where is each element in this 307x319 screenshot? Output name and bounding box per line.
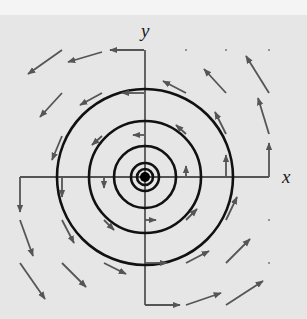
vector-arrow	[226, 281, 263, 305]
y-axis-label: y	[139, 20, 150, 41]
vector-arrow	[68, 52, 102, 62]
vector-arrow	[104, 263, 126, 274]
grid-dot	[268, 49, 270, 51]
vector-arrow	[40, 93, 62, 117]
grid-dot	[185, 49, 187, 51]
vector-arrow	[20, 263, 45, 299]
grid-dot	[268, 262, 270, 264]
vector-field-plot: y x	[0, 0, 307, 319]
vector-arrow	[258, 98, 269, 134]
vector-arrow	[186, 293, 221, 305]
grid-dot	[225, 49, 227, 51]
grid-dot	[268, 219, 270, 221]
vector-arrow	[62, 263, 86, 287]
origin-dot	[140, 172, 150, 182]
vector-arrow	[226, 239, 250, 263]
vector-arrow	[20, 220, 33, 256]
vector-arrow	[62, 220, 74, 243]
x-axis-label: x	[281, 166, 291, 187]
vector-arrow	[204, 69, 226, 93]
vector-arrow	[246, 56, 269, 93]
vector-arrow	[28, 50, 62, 74]
vector-field-figure: y x	[0, 0, 307, 319]
